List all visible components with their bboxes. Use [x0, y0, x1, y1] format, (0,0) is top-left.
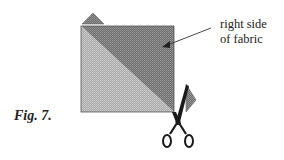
callout-text: right side of fabric — [220, 17, 267, 47]
callout-line-2: of fabric — [220, 32, 267, 47]
seam-allowance-triangle-top — [82, 13, 104, 24]
callout-line-1: right side — [220, 17, 267, 32]
figure-label: Fig. 7. — [14, 108, 52, 124]
callout-arrow-line — [170, 28, 211, 44]
